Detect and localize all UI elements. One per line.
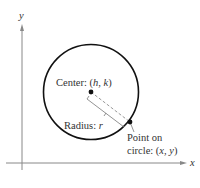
x-axis: x [6,157,195,168]
center-label: Center: (h, k) [56,77,112,89]
circle-diagram: y x Center: (h, k) Radius: r Point on ci… [0,0,200,188]
radius-label: Radius: r [64,120,104,131]
point-label-line1: Point on [127,132,163,143]
y-axis: y [18,10,24,170]
radius-line [91,92,130,122]
x-axis-label: x [189,157,195,168]
point-label-line2: circle: (x, y) [127,145,178,157]
y-axis-arrow-icon [20,24,24,31]
center-point [89,90,94,95]
point-on-circle [128,120,133,125]
x-axis-arrow-icon [180,161,187,165]
y-axis-label: y [18,10,24,21]
